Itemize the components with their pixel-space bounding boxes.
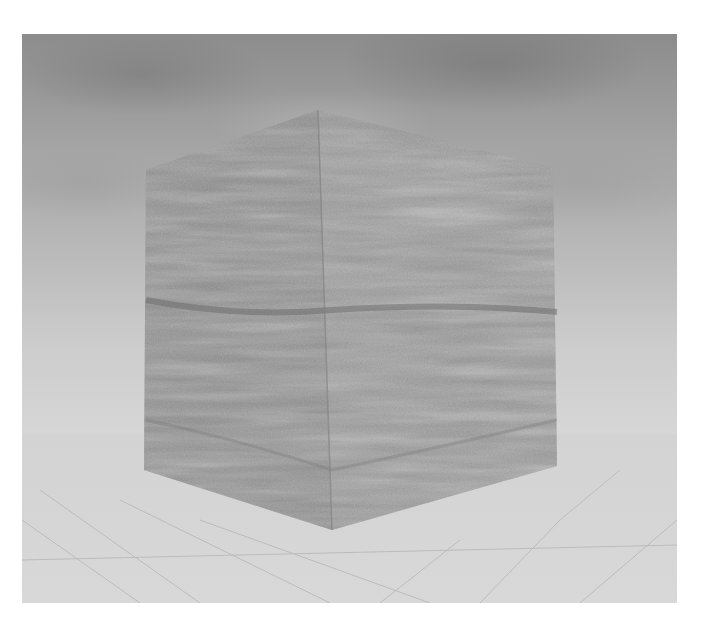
render-viewport [22, 34, 677, 603]
cube-scene [22, 34, 677, 603]
